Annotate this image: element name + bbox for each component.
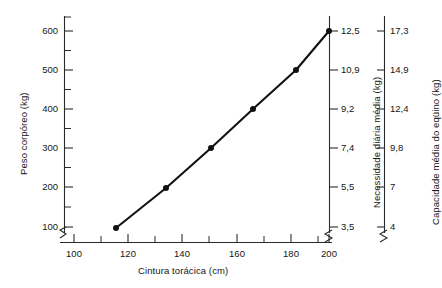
far-right-axis-title: Capacidade média do eqüino (kg) xyxy=(430,79,441,225)
bottom-axis-minor-ticks xyxy=(101,236,318,243)
middle-right-axis-tick-label: 10,9 xyxy=(341,64,371,75)
chart-figure: 600 500 400 300 200 100 Peso corpóreo (k… xyxy=(0,0,442,288)
left-axis-tick-label: 600 xyxy=(24,25,58,36)
data-series-line xyxy=(116,31,329,228)
middle-right-axis-break-icon xyxy=(325,230,332,242)
left-axis-break-icon xyxy=(60,227,66,238)
data-point xyxy=(250,106,256,112)
middle-right-axis-title: Necessidade diária média (kg) xyxy=(371,77,382,208)
bottom-axis-title: Cintura torácica (cm) xyxy=(138,265,228,276)
far-right-axis-tick-label: 7 xyxy=(390,181,422,192)
far-right-axis-tick-label: 17,3 xyxy=(390,25,422,36)
bottom-axis-tick-label: 200 xyxy=(309,248,349,259)
left-axis-tick-label: 500 xyxy=(24,64,58,75)
bottom-axis-tick-label: 120 xyxy=(108,248,148,259)
data-point xyxy=(293,67,299,73)
far-right-axis-tick-label: 4 xyxy=(390,221,422,232)
bottom-axis-tick-label: 180 xyxy=(271,248,311,259)
far-right-axis-tick-label: 12,4 xyxy=(390,103,422,114)
far-right-axis-tick-label: 9,8 xyxy=(390,142,422,153)
left-axis-tick-label: 400 xyxy=(24,103,58,114)
data-point xyxy=(208,145,214,151)
left-axis-tick-label: 100 xyxy=(24,221,58,232)
left-axis-tick-label: 300 xyxy=(24,142,58,153)
left-axis-tick-label: 200 xyxy=(24,181,58,192)
middle-right-axis-tick-label: 5,5 xyxy=(341,181,371,192)
middle-right-axis-tick-label: 9,2 xyxy=(341,103,371,114)
data-point xyxy=(163,185,169,191)
bottom-axis-tick-label: 160 xyxy=(217,248,257,259)
bottom-axis-tick-label: 100 xyxy=(54,248,94,259)
data-point xyxy=(326,28,332,34)
data-point-markers xyxy=(113,28,332,231)
far-right-axis-break-icon xyxy=(380,230,387,242)
middle-right-axis-tick-label: 12,5 xyxy=(341,25,371,36)
bottom-axis-tick-label: 140 xyxy=(162,248,202,259)
left-axis-title: Peso corpóreo (kg) xyxy=(18,92,29,175)
left-axis-minor-ticks xyxy=(65,17,72,207)
data-point xyxy=(113,225,119,231)
middle-right-axis-tick-label: 3,5 xyxy=(341,221,371,232)
middle-right-axis-tick-label: 7,4 xyxy=(341,142,371,153)
far-right-axis-tick-label: 14,9 xyxy=(390,64,422,75)
middle-right-axis-major-ticks xyxy=(330,31,339,227)
bottom-axis-major-ticks xyxy=(74,234,329,243)
